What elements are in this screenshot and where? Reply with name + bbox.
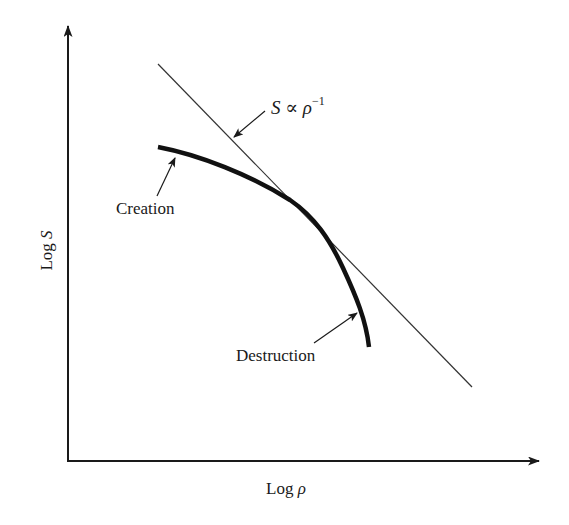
entropy-curve	[158, 147, 369, 347]
power-law-label: S ∝ ρ−1	[271, 95, 325, 117]
x-label-prefix: Log	[266, 479, 298, 498]
y-label-prefix: Log	[37, 239, 56, 271]
creation-arrow	[157, 158, 175, 196]
y-label-var: S	[37, 230, 56, 239]
diagram-canvas	[0, 0, 569, 525]
law-rho: ρ	[303, 97, 312, 118]
law-exponent: −1	[312, 94, 325, 108]
destruction-arrow	[314, 313, 357, 343]
law-arrow	[234, 111, 265, 137]
destruction-label: Destruction	[236, 347, 315, 364]
y-axis-label: Log S	[38, 221, 55, 281]
x-label-var: ρ	[298, 479, 306, 498]
law-prop: ∝	[281, 97, 303, 118]
creation-label: Creation	[116, 200, 175, 217]
x-axis-label: Log ρ	[266, 480, 306, 497]
law-s: S	[271, 97, 281, 118]
